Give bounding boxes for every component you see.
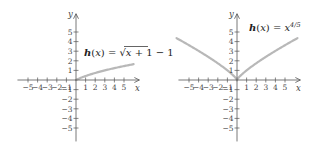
y-axis-label: y	[228, 9, 234, 19]
x-tick-label: 3	[102, 83, 107, 92]
chart-right: −5−4−3−2−11234554321−1−2−3−4−5xyh(x) = x…	[177, 9, 302, 142]
y-tick-label: −2	[61, 95, 72, 104]
y-tick-label: 4	[68, 37, 73, 46]
y-tick-label: −4	[222, 114, 233, 123]
y-tick-label: −4	[61, 114, 72, 123]
x-tick-label: 5	[283, 83, 288, 92]
y-tick-label: 2	[68, 57, 73, 66]
x-tick-label: 2	[254, 83, 259, 92]
x-tick-label: 2	[93, 83, 98, 92]
function-label: h(x) = x4/5	[249, 21, 301, 33]
chart-left: −5−4−3−2−11234554321−1−2−3−4−5xyh(x) = √…	[17, 9, 173, 142]
x-tick-label: 3	[263, 83, 268, 92]
radicand: x + 1	[126, 47, 153, 58]
y-tick-label: 5	[229, 28, 234, 37]
y-tick-label: −2	[222, 95, 233, 104]
y-tick-label: −1	[61, 85, 72, 94]
x-axis-label: x	[296, 83, 301, 93]
y-tick-label: 3	[68, 47, 73, 56]
x-tick-label: 4	[112, 83, 117, 92]
y-tick-label: −3	[61, 105, 72, 114]
charts-canvas: −5−4−3−2−11234554321−1−2−3−4−5xyh(x) = √…	[0, 0, 317, 147]
y-tick-label: −5	[222, 124, 233, 133]
y-tick-label: −5	[61, 124, 72, 133]
y-tick-label: −3	[222, 105, 233, 114]
y-tick-label: 1	[68, 66, 73, 75]
x-tick-label: 5	[122, 83, 127, 92]
y-tick-label: 4	[229, 37, 234, 46]
y-tick-label: 3	[229, 47, 234, 56]
x-tick-label: 1	[244, 83, 249, 92]
y-axis-label: y	[67, 9, 73, 19]
x-tick-label: 4	[273, 83, 278, 92]
y-tick-label: 2	[229, 57, 234, 66]
x-tick-label: 1	[83, 83, 88, 92]
y-tick-label: −1	[222, 85, 233, 94]
y-tick-label: 1	[229, 66, 234, 75]
y-tick-label: 5	[68, 28, 73, 37]
function-label: h(x) = √x + 1 − 1	[84, 47, 174, 58]
x-axis-label: x	[135, 83, 140, 93]
